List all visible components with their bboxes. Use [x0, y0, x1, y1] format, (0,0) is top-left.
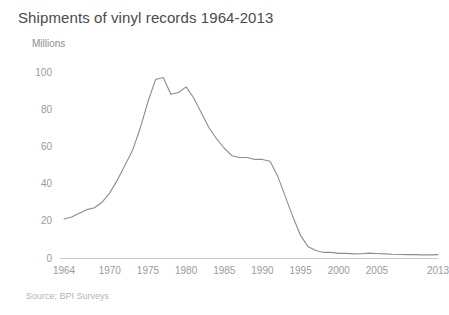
y-axis-tick-label: 60	[41, 141, 53, 152]
chart-figure: Shipments of vinyl records 1964-2013 Mil…	[0, 0, 449, 315]
y-axis-tick-label: 100	[35, 67, 52, 78]
x-axis-tick-label: 1970	[99, 265, 122, 276]
x-axis-tick-label: 2000	[328, 265, 351, 276]
x-axis-tick-label: 2013	[427, 265, 449, 276]
x-axis-group: 1964197019751980198519901995200020052013	[53, 258, 449, 276]
line-chart-plot: 020406080100 196419701975198019851990199…	[0, 0, 449, 315]
y-axis-group: 020406080100	[35, 67, 52, 264]
y-axis-tick-label: 20	[41, 215, 53, 226]
y-axis-tick-label: 40	[41, 178, 53, 189]
chart-source-note: Source: BPI Surveys	[26, 291, 109, 301]
data-series-line	[64, 78, 438, 255]
x-axis-tick-label: 1995	[289, 265, 312, 276]
x-axis-tick-label: 1980	[175, 265, 198, 276]
series-group	[64, 78, 438, 255]
x-axis-tick-label: 2005	[366, 265, 389, 276]
x-axis-tick-label: 1985	[213, 265, 236, 276]
x-axis-tick-label: 1990	[251, 265, 274, 276]
x-axis-tick-label: 1975	[137, 265, 160, 276]
x-axis-tick-label: 1964	[53, 265, 76, 276]
y-axis-tick-label: 80	[41, 104, 53, 115]
y-axis-tick-label: 0	[46, 253, 52, 264]
